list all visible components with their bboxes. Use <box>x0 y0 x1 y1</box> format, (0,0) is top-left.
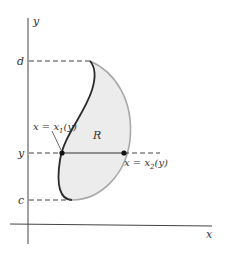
x1-label-rhs: (y) <box>63 121 77 132</box>
d-label: d <box>17 55 24 68</box>
x2-label-rhs: (y) <box>154 157 168 168</box>
y-axis-label: y <box>32 15 40 28</box>
x-axis-label: x <box>206 228 213 241</box>
region-diagram: y x d y c R x = x1(y) x = x2(y) <box>0 0 225 256</box>
y-level-label: y <box>17 147 25 160</box>
right-intersection-point <box>121 150 126 155</box>
x2-label: x = x2(y) <box>124 157 168 171</box>
x2-label-lhs: x = x <box>124 157 150 168</box>
region-label: R <box>92 129 101 142</box>
left-intersection-point <box>59 150 64 155</box>
x-axis <box>10 224 212 226</box>
x1-label-lhs: x = x <box>33 121 59 132</box>
c-label: c <box>18 194 24 207</box>
